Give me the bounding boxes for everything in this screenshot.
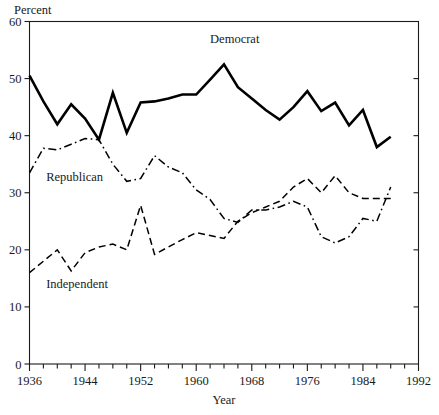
x-tick-label: 1984	[350, 374, 376, 388]
chart-figure: Percent 0102030405060 193619441952196019…	[0, 0, 439, 415]
series-line-democrat	[30, 64, 391, 147]
series-annotation-democrat: Democrat	[210, 32, 260, 46]
x-tick-label: 1944	[73, 374, 99, 388]
y-tick-label: 40	[9, 129, 22, 143]
x-tick-label: 1960	[184, 374, 209, 388]
y-tick-label: 20	[9, 243, 22, 257]
y-axis-tick-labels: 0102030405060	[9, 15, 22, 372]
series-line-republican	[30, 139, 391, 243]
x-axis-ticks	[30, 364, 419, 371]
y-tick-label: 10	[9, 300, 22, 314]
x-tick-label: 1992	[406, 374, 431, 388]
series-line-independent	[30, 176, 391, 273]
x-tick-label: 1968	[239, 374, 264, 388]
data-series-group	[30, 64, 391, 272]
series-annotation-independent: Independent	[46, 277, 108, 291]
y-axis-ticks	[25, 22, 419, 365]
x-tick-label: 1976	[295, 374, 320, 388]
y-tick-label: 30	[9, 186, 22, 200]
plot-frame	[30, 22, 419, 365]
y-tick-label: 60	[9, 15, 22, 29]
party-identification-line-chart: Percent 0102030405060 193619441952196019…	[0, 0, 439, 415]
x-tick-label: 1936	[17, 374, 42, 388]
y-tick-label: 50	[9, 72, 22, 86]
x-tick-label: 1952	[128, 374, 153, 388]
x-axis-title: Year	[212, 393, 236, 407]
x-axis-tick-labels: 19361944195219601968197619841992	[17, 374, 431, 388]
y-tick-label: 0	[15, 358, 21, 372]
series-annotation-republican: Republican	[46, 170, 104, 184]
